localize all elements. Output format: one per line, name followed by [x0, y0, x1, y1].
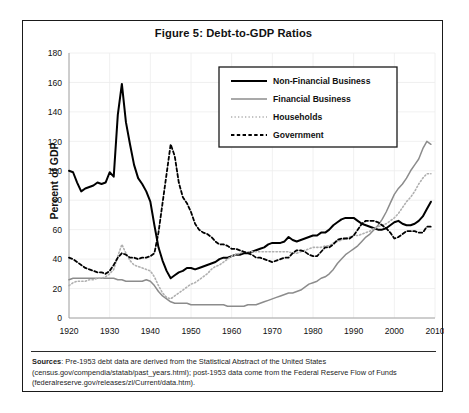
x-tick-label-1940: 1940: [141, 326, 160, 336]
legend-label-2: Households: [273, 112, 322, 122]
x-tick-label-1990: 1990: [344, 326, 363, 336]
source-label: Sources: [32, 357, 61, 366]
legend-label-3: Government: [273, 130, 324, 140]
series-line-government: [69, 144, 431, 274]
legend-label-0: Non-Financial Business: [273, 76, 371, 86]
chart-plot-area: Percent of GDP 0204060801001201401601801…: [23, 45, 444, 345]
debt-to-gdp-line-chart: 0204060801001201401601801920193019401950…: [23, 45, 444, 345]
y-tick-label-160: 160: [48, 78, 63, 88]
x-tick-label-1930: 1930: [100, 326, 119, 336]
y-tick-label-20: 20: [52, 284, 62, 294]
source-divider: [31, 351, 436, 352]
x-tick-label-2000: 2000: [385, 326, 404, 336]
x-tick-label-1980: 1980: [303, 326, 322, 336]
x-tick-label-1970: 1970: [263, 326, 282, 336]
y-tick-label-180: 180: [48, 48, 63, 58]
x-tick-label-1920: 1920: [59, 326, 78, 336]
figure-title: Figure 5: Debt-to-GDP Ratios: [23, 27, 444, 39]
figure-frame: Figure 5: Debt-to-GDP Ratios Percent of …: [22, 20, 443, 392]
source-note: Sources: Pre-1953 debt data are derived …: [32, 357, 436, 389]
x-tick-label-1950: 1950: [181, 326, 200, 336]
y-tick-label-0: 0: [57, 313, 62, 323]
y-tick-label-40: 40: [52, 254, 62, 264]
legend-label-1: Financial Business: [273, 94, 351, 104]
series-line-financial-business: [69, 141, 431, 306]
y-tick-label-140: 140: [48, 107, 63, 117]
x-tick-label-1960: 1960: [222, 326, 241, 336]
source-text: : Pre-1953 debt data are derived from th…: [32, 357, 397, 387]
y-axis-title: Percent of GDP: [48, 126, 60, 236]
x-tick-label-2010: 2010: [425, 326, 444, 336]
